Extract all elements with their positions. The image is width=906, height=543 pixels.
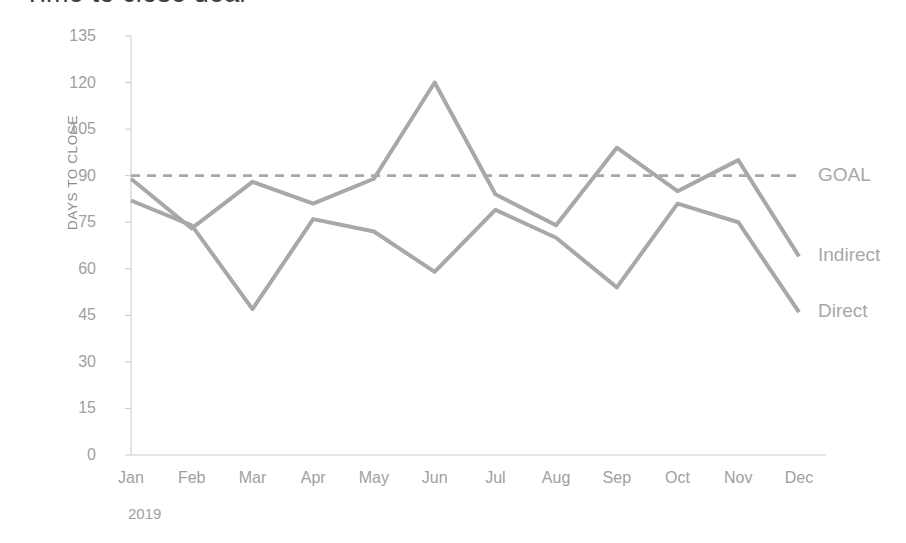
- chart-container: Time to close deal DAYS TO CLOSE 0153045…: [0, 0, 906, 543]
- series-line-indirect: [131, 83, 799, 257]
- series-lines: [131, 83, 799, 313]
- axis-lines: [131, 36, 826, 455]
- plot-area: [0, 0, 906, 543]
- axis-tick-marks: [125, 36, 131, 455]
- series-line-direct: [131, 200, 799, 312]
- series-label-direct: Direct: [818, 300, 868, 322]
- series-label-indirect: Indirect: [818, 244, 880, 266]
- series-label-goal: GOAL: [818, 164, 871, 186]
